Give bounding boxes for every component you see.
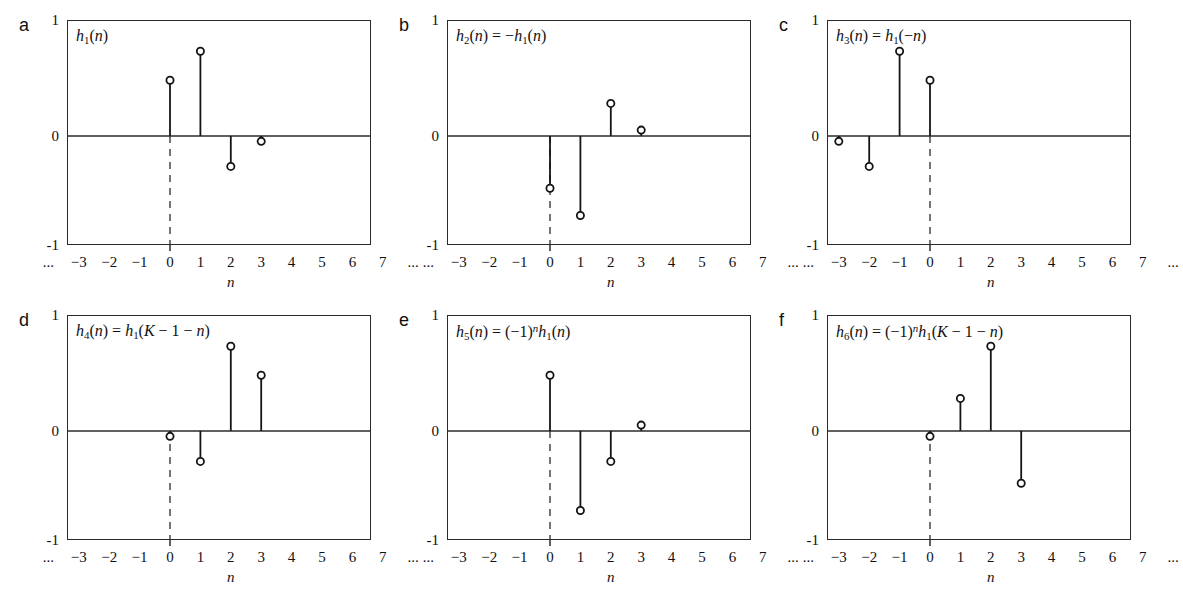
x-tick-label: 3: [246, 550, 276, 565]
x-axis-label: n: [211, 275, 251, 290]
y-tick-label: -1: [793, 238, 819, 253]
x-tick-label: 1: [185, 255, 215, 270]
x-tick-label: 5: [687, 550, 717, 565]
x-tick-label: ...: [33, 550, 63, 565]
x-tick-label: −2: [474, 550, 504, 565]
stem-marker-circle: [866, 163, 873, 170]
x-tick-label: −1: [505, 550, 535, 565]
x-tick-label: 2: [976, 255, 1006, 270]
x-axis-tick-row: ...−3−2−101234567...: [827, 550, 1131, 568]
x-tick-label: ...: [793, 550, 823, 565]
plot-canvas: [827, 315, 1131, 550]
y-tick-label: -1: [33, 533, 59, 548]
x-tick-label: 7: [748, 550, 778, 565]
x-tick-label: 0: [155, 550, 185, 565]
x-axis-label: n: [591, 570, 631, 585]
stem-marker-circle: [1018, 480, 1025, 487]
y-tick-label: 1: [33, 308, 59, 323]
stem-marker-circle: [987, 343, 994, 350]
stem-marker-circle: [835, 138, 842, 145]
x-tick-label: ...: [413, 550, 443, 565]
y-tick-label: 1: [793, 308, 819, 323]
stem-marker-circle: [607, 100, 614, 107]
x-axis-label: n: [971, 570, 1011, 585]
x-tick-label: −1: [125, 550, 155, 565]
stem-marker-circle: [896, 48, 903, 55]
stem-marker-circle: [258, 372, 265, 379]
x-tick-label: 4: [657, 550, 687, 565]
x-tick-label: 6: [1097, 550, 1127, 565]
stem-marker-circle: [197, 458, 204, 465]
x-tick-label: −3: [444, 550, 474, 565]
x-tick-label: −3: [824, 550, 854, 565]
x-tick-label: −1: [125, 255, 155, 270]
y-tick-label: -1: [793, 533, 819, 548]
panel-equation-label: h3(n) = h1(−n): [836, 28, 926, 46]
panel-letter-d: d: [19, 311, 29, 329]
stem-marker-circle: [166, 77, 173, 84]
stem-marker-circle: [227, 343, 234, 350]
x-tick-label: 7: [368, 550, 398, 565]
stem-marker-circle: [957, 395, 964, 402]
x-tick-label: −2: [854, 550, 884, 565]
x-tick-label: 0: [915, 550, 945, 565]
x-tick-label: −2: [94, 550, 124, 565]
x-axis-label: n: [971, 275, 1011, 290]
x-axis-label: n: [211, 570, 251, 585]
x-tick-label: 7: [368, 255, 398, 270]
panel-equation-label: h1(n): [76, 28, 108, 46]
x-tick-label: 5: [687, 255, 717, 270]
stem-marker-circle: [577, 507, 584, 514]
y-tick-label: -1: [33, 238, 59, 253]
stem-marker-circle: [197, 48, 204, 55]
panel-letter-e: e: [399, 311, 409, 329]
x-tick-label: 6: [717, 550, 747, 565]
x-tick-label: 0: [535, 550, 565, 565]
y-tick-label: 0: [413, 129, 439, 144]
x-tick-label: 4: [277, 550, 307, 565]
y-tick-label: -1: [413, 533, 439, 548]
x-tick-label: 5: [1067, 550, 1097, 565]
x-tick-label: 7: [1128, 550, 1158, 565]
stem-marker-circle: [638, 421, 645, 428]
x-tick-label: 2: [216, 255, 246, 270]
plot-canvas: [827, 20, 1131, 255]
x-tick-label: 0: [155, 255, 185, 270]
stem-marker-circle: [166, 433, 173, 440]
y-tick-label: 1: [413, 13, 439, 28]
stem-marker-circle: [577, 212, 584, 219]
x-tick-label: −1: [505, 255, 535, 270]
x-tick-label: 6: [1097, 255, 1127, 270]
y-tick-label: 0: [793, 424, 819, 439]
stem-marker-circle: [546, 372, 553, 379]
y-tick-label: 1: [793, 13, 819, 28]
y-tick-label: 0: [793, 129, 819, 144]
stem-marker-circle: [546, 185, 553, 192]
panel-letter-c: c: [779, 16, 788, 34]
panel-equation-label: h4(n) = h1(K − 1 − n): [76, 323, 210, 341]
x-tick-label: 4: [1037, 255, 1067, 270]
x-tick-label: 4: [657, 255, 687, 270]
x-tick-label: 3: [626, 550, 656, 565]
panel-letter-a: a: [19, 16, 29, 34]
x-axis-tick-row: ...−3−2−101234567...: [827, 255, 1131, 273]
plot-canvas: [67, 20, 371, 255]
y-tick-label: 0: [413, 424, 439, 439]
x-tick-label: ...: [1158, 255, 1183, 270]
plot-canvas: [67, 315, 371, 550]
x-tick-label: ...: [33, 255, 63, 270]
x-tick-label: 2: [596, 255, 626, 270]
y-tick-label: 1: [413, 308, 439, 323]
x-axis-tick-row: ...−3−2−101234567...: [447, 550, 751, 568]
x-tick-label: 7: [1128, 255, 1158, 270]
panel-letter-f: f: [779, 311, 784, 329]
stem-marker-circle: [638, 126, 645, 133]
x-tick-label: 6: [337, 550, 367, 565]
y-tick-label: 0: [33, 424, 59, 439]
x-tick-label: 0: [915, 255, 945, 270]
x-tick-label: 4: [277, 255, 307, 270]
x-tick-label: −3: [444, 255, 474, 270]
x-tick-label: −1: [885, 255, 915, 270]
x-tick-label: ...: [793, 255, 823, 270]
